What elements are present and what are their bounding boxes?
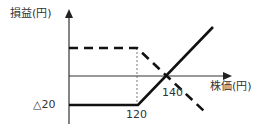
- y-axis-arrow-icon: [65, 9, 73, 18]
- strike-label: 120: [126, 109, 147, 121]
- breakeven-label: 140: [162, 87, 183, 99]
- solid-payoff-line: [69, 27, 213, 105]
- payoff-diagram: 損益(円) 株価(円) 140 △20 120: [0, 0, 265, 132]
- x-axis-label: 株価(円): [210, 81, 252, 93]
- loss-label: △20: [33, 99, 55, 111]
- y-axis-label: 損益(円): [10, 8, 52, 20]
- x-axis-arrow-icon: [223, 72, 232, 80]
